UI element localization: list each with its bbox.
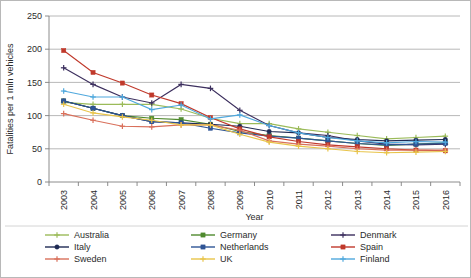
series-sweden [61, 111, 448, 153]
series-spain [62, 48, 448, 152]
marker-finland [237, 112, 243, 118]
x-tick-label: 2009 [235, 190, 245, 210]
marker-finland [61, 88, 67, 94]
legend-marker-germany [201, 233, 205, 237]
x-tick-label: 2013 [353, 190, 363, 210]
y-tick-label: 0 [37, 177, 42, 187]
legend-item-italy[interactable]: Italy [45, 242, 91, 252]
marker-spain [150, 93, 154, 97]
marker-finland [296, 130, 302, 136]
marker-australia [120, 102, 126, 108]
marker-sweden [120, 123, 126, 129]
legend-item-sweden[interactable]: Sweden [45, 254, 107, 264]
x-axis-title: Year [245, 212, 263, 222]
legend-item-germany[interactable]: Germany [191, 230, 258, 240]
marker-finland [120, 94, 126, 100]
legend-marker-finland [340, 256, 346, 262]
legend-marker-netherlands [201, 245, 205, 249]
marker-spain [91, 70, 95, 74]
legend-marker-sweden [54, 256, 60, 262]
legend-marker-australia [54, 232, 60, 238]
legend-marker-italy [55, 245, 59, 249]
x-tick-label: 2016 [441, 190, 451, 210]
marker-finland [90, 94, 96, 100]
marker-sweden [149, 124, 155, 130]
legend-item-spain[interactable]: Spain [331, 242, 383, 252]
marker-netherlands [91, 106, 95, 110]
legend-label-sweden: Sweden [74, 254, 107, 264]
legend-marker-denmark [340, 232, 346, 238]
fatalities-line-chart: 0501001502002502003200420052006200720082… [0, 0, 471, 278]
legend-label-uk: UK [220, 254, 233, 264]
x-tick-label: 2005 [118, 190, 128, 210]
marker-finland [149, 107, 155, 113]
legend-label-germany: Germany [220, 230, 258, 240]
legend-label-italy: Italy [74, 242, 91, 252]
marker-italy [267, 129, 271, 133]
legend-marker-uk [200, 256, 206, 262]
marker-spain [62, 48, 66, 52]
marker-denmark [61, 65, 67, 71]
y-tick-label: 250 [27, 11, 42, 21]
legend-marker-spain [341, 245, 345, 249]
chart-canvas: 0501001502002502003200420052006200720082… [1, 1, 471, 278]
legend-label-netherlands: Netherlands [220, 242, 269, 252]
series-italy [61, 99, 447, 143]
marker-spain [120, 81, 124, 85]
x-tick-label: 2003 [59, 190, 69, 210]
legend-label-denmark: Denmark [360, 230, 397, 240]
legend-item-netherlands[interactable]: Netherlands [191, 242, 269, 252]
legend-label-spain: Spain [360, 242, 383, 252]
y-tick-label: 50 [32, 144, 42, 154]
marker-uk [354, 149, 360, 155]
x-tick-label: 2007 [177, 190, 187, 210]
legend-item-finland[interactable]: Finland [331, 254, 390, 264]
marker-uk [90, 110, 96, 116]
x-tick-label: 2014 [382, 190, 392, 210]
x-tick-label: 2006 [147, 190, 157, 210]
x-tick-label: 2012 [323, 190, 333, 210]
y-tick-label: 200 [27, 44, 42, 54]
series-netherlands [62, 99, 448, 147]
legend-label-australia: Australia [74, 230, 109, 240]
x-tick-label: 2004 [89, 190, 99, 210]
legend-label-finland: Finland [360, 254, 390, 264]
y-tick-label: 150 [27, 78, 42, 88]
legend-item-denmark[interactable]: Denmark [331, 230, 397, 240]
marker-sweden [90, 117, 96, 123]
legend-item-australia[interactable]: Australia [45, 230, 109, 240]
x-tick-label: 2015 [411, 190, 421, 210]
y-tick-label: 100 [27, 111, 42, 121]
x-tick-label: 2011 [294, 190, 304, 209]
legend-item-uk[interactable]: UK [191, 254, 233, 264]
x-tick-label: 2010 [265, 190, 275, 210]
y-axis-title: Fatalities per 1 mln vehicles [5, 43, 15, 155]
x-tick-label: 2008 [206, 190, 216, 210]
